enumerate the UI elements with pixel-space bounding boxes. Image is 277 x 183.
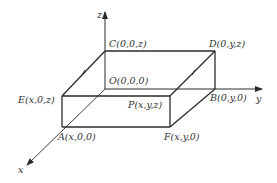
tick-mark-DP [192,70,195,75]
point-label-A: A(x,0,0) [57,131,96,142]
point-label-D: D(0,y,z) [208,38,246,49]
coordinate-diagram: z y x C(0,0,z) D(0,y,z) O(0,0,0) E(x,0,z… [0,0,277,183]
edge-FB [170,89,215,127]
z-axis-label: z [96,9,103,20]
y-axis-label: y [255,93,262,104]
point-label-E: E(x,0,z) [17,94,55,105]
point-label-P: P(x,y,z) [127,99,163,110]
edge-CE [62,51,105,96]
point-label-B: B(0,y,0) [209,92,247,103]
point-label-O: O(0,0,0) [109,75,149,86]
point-label-F: F(x,y,0) [163,131,200,142]
point-label-C: C(0,0,z) [109,38,147,49]
x-axis-label: x [18,164,24,175]
